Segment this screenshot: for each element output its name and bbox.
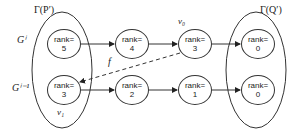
node-label: rank= [122,81,142,90]
set-label-left: Γ(P′) [34,4,54,15]
label-v1: v₁ [57,107,64,117]
row-label-bottom: Gⁱ⁻¹ [12,82,29,93]
node-value: 2 [130,90,134,99]
node-bottom-1: rank=2 [115,75,149,105]
set-label-right: Γ(Q′) [260,4,282,15]
label-f: f [108,56,111,67]
node-label: rank= [54,81,74,90]
node-top-1: rank=4 [115,29,149,59]
node-value: 3 [193,44,197,53]
node-top-2-v0: rank=3 [178,29,212,59]
node-label: rank= [185,81,205,90]
node-label: rank= [185,35,205,44]
node-value: 3 [62,90,66,99]
diagram-canvas [0,0,298,139]
node-label: rank= [54,35,74,44]
node-label: rank= [248,81,268,90]
node-bottom-2: rank=1 [178,75,212,105]
node-label: rank= [122,35,142,44]
node-value: 1 [193,90,197,99]
row-label-top: Gⁱ [17,34,26,45]
node-value: 4 [130,44,134,53]
node-value: 0 [256,90,260,99]
label-v0: v₀ [178,16,185,26]
node-top-0: rank=5 [47,29,81,59]
node-value: 0 [256,44,260,53]
node-bottom-0-v1: rank=3 [47,75,81,105]
node-bottom-3: rank=0 [241,75,275,105]
node-top-3: rank=0 [241,29,275,59]
node-label: rank= [248,35,268,44]
node-value: 5 [62,44,66,53]
